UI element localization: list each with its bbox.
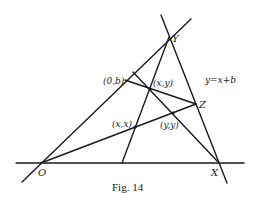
figure-caption: Fig. 14	[112, 181, 144, 193]
label-xy: (x,y)	[153, 78, 174, 88]
equation-label: y=x+b	[204, 75, 236, 85]
label-zero-b: (0,b)	[103, 76, 125, 86]
point-xx	[133, 125, 136, 128]
label-yy: (y,y)	[160, 120, 179, 130]
label-y: Y	[172, 33, 180, 44]
label-z: Z	[198, 99, 207, 110]
line-xy	[161, 15, 227, 183]
line-oy	[22, 19, 191, 182]
label-o: O	[38, 167, 46, 178]
point-yy	[171, 111, 174, 114]
line-oy-to-x	[133, 72, 219, 163]
label-xx: (x,x)	[112, 119, 133, 129]
label-x: X	[210, 167, 219, 178]
geometry-figure: O X Y Z (0,b) (x,y) (x,x) (y,y) y=x+b Fi…	[0, 0, 257, 208]
line-y-to-baseline	[122, 37, 169, 163]
point-xy	[148, 87, 151, 90]
